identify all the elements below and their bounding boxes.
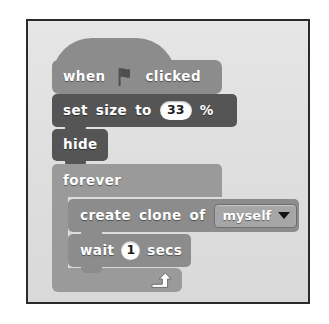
clone-target-dropdown[interactable]: myself [214, 204, 298, 228]
set-label: set [63, 104, 88, 118]
chevron-down-icon [278, 212, 290, 219]
clone-target-value: myself [223, 209, 272, 222]
size-label: size [96, 104, 127, 118]
create-label: create [80, 209, 131, 223]
clicked-label: clicked [145, 70, 201, 84]
hat-block-content: when clicked [52, 60, 222, 94]
wait-duration-input[interactable]: 1 [121, 241, 140, 260]
block-set-size-to[interactable]: set size to 33 % [52, 94, 237, 127]
forever-label: forever [63, 174, 121, 188]
block-when-flag-clicked[interactable]: when clicked [52, 38, 222, 94]
block-create-clone-of[interactable]: create clone of myself [68, 199, 299, 232]
when-label: when [63, 70, 105, 84]
block-hide[interactable]: hide [52, 129, 108, 161]
wait-block-notch [81, 267, 102, 273]
forever-block-header: forever [52, 164, 222, 197]
to-label: to [135, 104, 152, 118]
green-flag-icon [114, 66, 136, 88]
hide-label: hide [63, 138, 98, 152]
forever-block-spine [52, 194, 68, 272]
script-figure-frame: when clicked set size to 33 % hide [26, 19, 310, 304]
secs-label: secs [147, 244, 182, 258]
clone-label: clone [139, 209, 182, 223]
wait-label: wait [80, 244, 114, 258]
loop-arrow-icon [149, 272, 175, 294]
of-label: of [190, 209, 206, 223]
script-canvas[interactable]: when clicked set size to 33 % hide [28, 21, 308, 302]
block-wait-secs[interactable]: wait 1 secs [68, 234, 191, 267]
size-value-input[interactable]: 33 [160, 101, 192, 120]
percent-label: % [200, 104, 214, 118]
